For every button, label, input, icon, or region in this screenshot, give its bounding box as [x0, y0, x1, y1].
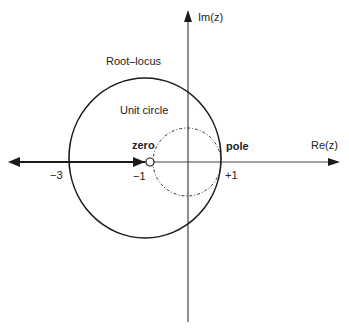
root-locus-diagram	[0, 0, 349, 333]
zero-label: zero	[132, 140, 155, 151]
root-locus-circle	[69, 78, 221, 238]
x-axis-label: Re(z)	[311, 140, 338, 151]
y-axis-label: Im(z)	[198, 12, 223, 23]
tick-minus-one: −1	[133, 171, 146, 182]
unit-circle-label: Unit circle	[120, 105, 168, 116]
tick-plus-one: +1	[225, 170, 238, 181]
root-locus-label: Root–locus	[106, 56, 161, 67]
left-arrow-icon	[8, 157, 20, 167]
tick-minus-three: −3	[50, 170, 63, 181]
re-axis-arrow-icon	[328, 158, 340, 166]
right-arrow-icon	[133, 157, 145, 167]
zero-marker-icon	[146, 158, 154, 166]
pole-label: pole	[226, 141, 249, 152]
im-axis-arrow-icon	[184, 10, 192, 22]
